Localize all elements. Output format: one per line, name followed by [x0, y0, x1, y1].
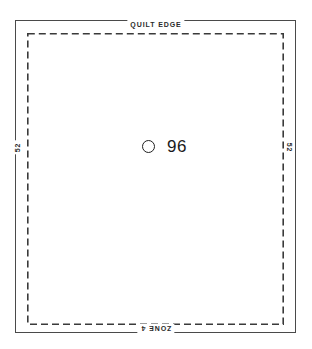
- quilt-zone-diagram: QUILT EDGE ZONE 4 52 52 96: [0, 0, 312, 349]
- label-edge-left: 52: [13, 141, 22, 155]
- label-edge-right: 52: [285, 141, 294, 155]
- zone-boundary-rect: [28, 34, 283, 324]
- marker-value: 96: [167, 138, 187, 155]
- center-marker: 96: [142, 138, 187, 155]
- zone-boundary-svg: [27, 33, 284, 325]
- zone-boundary: [27, 33, 284, 325]
- label-quilt-edge: QUILT EDGE: [127, 20, 184, 29]
- label-zone-bottom: ZONE 4: [138, 324, 175, 333]
- circle-outline-icon: [142, 140, 155, 153]
